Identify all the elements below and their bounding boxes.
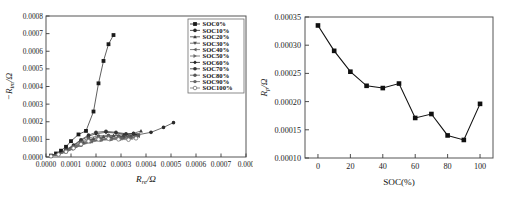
x-ticklabel: 0.000 <box>238 160 253 169</box>
data-marker <box>114 131 118 135</box>
x-ticklabel: 0.0003 <box>111 160 132 169</box>
x-ticklabel: 0.0007 <box>211 160 232 169</box>
data-marker <box>79 143 83 147</box>
y-ticklabel: 0.0005 <box>23 64 44 73</box>
x-ticklabel: 0 <box>316 162 320 171</box>
data-marker <box>84 129 88 133</box>
x-ticklabel: 0.0000 <box>36 160 57 169</box>
data-marker <box>77 133 81 137</box>
data-marker <box>316 23 321 28</box>
legend: SOC0%SOC10%SOC20%SOC30%SOC40%SOC50%SOC60… <box>188 19 244 93</box>
y-ticklabel: 0.00035 <box>274 13 301 22</box>
data-marker <box>92 110 96 114</box>
y-ticklabel: 0.0008 <box>23 12 44 21</box>
x-ticklabel: 0.0005 <box>161 160 182 169</box>
x-ticklabel: 20 <box>346 162 354 171</box>
data-marker <box>104 129 108 133</box>
legend-label-10: SOC100% <box>203 84 233 91</box>
data-marker <box>57 153 61 157</box>
y-ticklabel: 0.00010 <box>274 154 301 163</box>
data-marker <box>380 86 385 91</box>
data-marker <box>97 81 101 85</box>
data-marker <box>162 126 166 130</box>
data-marker <box>127 138 131 142</box>
y-ticklabel: 0.0001 <box>23 135 44 144</box>
data-marker <box>429 112 434 117</box>
data-marker <box>117 138 121 142</box>
data-marker <box>445 133 450 138</box>
data-marker <box>124 132 128 136</box>
y-axis-title: Rp/Ω <box>259 78 270 97</box>
nyquist-plot-svg: 0.00000.00010.00020.00030.00040.00050.00… <box>0 0 253 197</box>
data-marker <box>149 131 153 135</box>
data-marker <box>397 81 402 86</box>
data-marker <box>69 139 73 143</box>
figure-container: 0.00000.00010.00020.00030.00040.00050.00… <box>0 0 506 197</box>
x-ticklabel: 40 <box>379 162 387 171</box>
data-marker <box>478 102 483 107</box>
data-marker <box>112 33 116 37</box>
y-ticklabel: 0.0006 <box>23 47 44 56</box>
x-ticklabel: 0.0004 <box>136 160 157 169</box>
data-marker <box>193 80 196 83</box>
data-marker <box>193 86 197 90</box>
y-ticklabel: 0.00025 <box>274 69 301 78</box>
data-marker <box>364 84 369 89</box>
rp-soc-plot-svg: 0.000100.000150.000200.000250.000300.000… <box>253 0 506 197</box>
data-marker <box>132 132 136 136</box>
data-marker <box>134 137 138 141</box>
data-marker <box>87 139 91 143</box>
data-marker <box>64 150 68 154</box>
data-marker <box>348 69 353 74</box>
x-ticklabel: 80 <box>444 162 452 171</box>
x-ticklabel: 0.0002 <box>86 160 107 169</box>
data-marker <box>102 59 106 63</box>
x-ticklabel: 0.0001 <box>61 160 82 169</box>
data-marker <box>172 121 176 125</box>
y-ticklabel: 0.00015 <box>274 126 301 135</box>
data-marker <box>94 131 98 135</box>
x-axis-title: SOC(%) <box>383 177 415 187</box>
y-ticklabel: 0.0002 <box>23 117 44 126</box>
data-marker <box>193 29 197 33</box>
data-marker <box>413 116 418 121</box>
x-ticklabel: 0.0006 <box>186 160 207 169</box>
y-ticklabel: 0.0004 <box>23 82 44 91</box>
data-marker <box>193 22 197 26</box>
y-axis-title: −Rim/Ω <box>4 72 15 100</box>
x-axis-title: Rre/Ω <box>135 174 156 185</box>
data-marker <box>107 137 111 141</box>
data-marker <box>49 154 53 158</box>
y-ticklabel: 0.00030 <box>274 41 301 50</box>
data-marker <box>193 67 197 71</box>
x-ticklabel: 60 <box>411 162 419 171</box>
data-marker <box>107 42 111 46</box>
x-ticklabel: 100 <box>474 162 486 171</box>
data-marker <box>193 73 196 76</box>
data-marker <box>462 138 467 143</box>
data-marker <box>72 146 76 150</box>
rp-soc-plot-panel: 0.000100.000150.000200.000250.000300.000… <box>253 0 506 197</box>
y-ticklabel: 0.0007 <box>23 29 44 38</box>
y-ticklabel: 0.00020 <box>274 98 301 107</box>
data-marker <box>97 138 101 142</box>
nyquist-plot-panel: 0.00000.00010.00020.00030.00040.00050.00… <box>0 0 253 197</box>
data-marker <box>332 49 337 54</box>
y-ticklabel: 0.0003 <box>23 100 44 109</box>
